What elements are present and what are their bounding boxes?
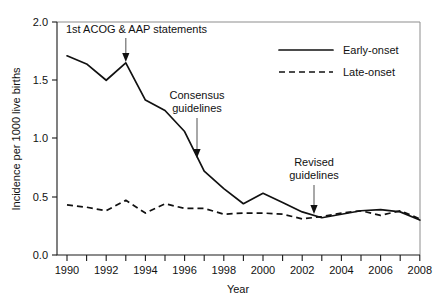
x-tick-label-2004: 2004 bbox=[329, 264, 353, 276]
annotation-acog-label: 1st ACOG & AAP statements bbox=[66, 23, 208, 35]
x-tick-label-1998: 1998 bbox=[212, 264, 236, 276]
annotation-revised-label-2: guidelines bbox=[289, 169, 339, 181]
x-tick-label-1994: 1994 bbox=[133, 264, 157, 276]
annotation-consensus-label-1: Consensus bbox=[169, 89, 225, 101]
x-tick-label-2000: 2000 bbox=[251, 264, 275, 276]
incidence-line-chart: 2.0 1.5 1.0 0.5 0.0 Incidence per 1000 l… bbox=[0, 0, 440, 307]
y-tick-label-1-5: 1.5 bbox=[33, 74, 48, 86]
x-tick-label-1992: 1992 bbox=[94, 264, 118, 276]
x-tick-label-2008: 2008 bbox=[408, 264, 432, 276]
y-axis-title: Incidence per 1000 live births bbox=[10, 67, 22, 211]
y-tick-label-1-0: 1.0 bbox=[33, 132, 48, 144]
chart-figure: 2.0 1.5 1.0 0.5 0.0 Incidence per 1000 l… bbox=[0, 0, 440, 307]
x-axis-title: Year bbox=[227, 283, 250, 295]
x-tick-label-1990: 1990 bbox=[55, 264, 79, 276]
legend-label-early-onset: Early-onset bbox=[343, 44, 399, 56]
y-tick-label-2-0: 2.0 bbox=[33, 16, 48, 28]
x-tick-label-2002: 2002 bbox=[290, 264, 314, 276]
x-tick-label-1996: 1996 bbox=[172, 264, 196, 276]
y-tick-label-0-5: 0.5 bbox=[33, 191, 48, 203]
legend-label-late-onset: Late-onset bbox=[343, 66, 395, 78]
annotation-consensus-label-2: guidelines bbox=[172, 102, 222, 114]
y-tick-label-0-0: 0.0 bbox=[33, 249, 48, 261]
annotation-revised-label-1: Revised bbox=[294, 156, 334, 168]
x-tick-label-2006: 2006 bbox=[368, 264, 392, 276]
